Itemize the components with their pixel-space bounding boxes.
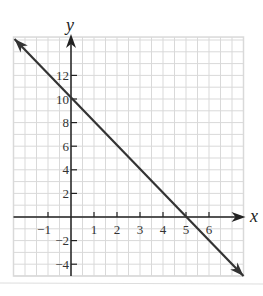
- y-tick-label: 12: [56, 68, 69, 83]
- y-tick-label: 4: [63, 162, 70, 177]
- x-tick-label: 2: [114, 222, 121, 237]
- y-tick-label: −4: [55, 257, 69, 272]
- x-tick-label: 1: [91, 222, 98, 237]
- x-tick-label: 4: [160, 222, 167, 237]
- y-tick-label: 6: [63, 139, 70, 154]
- y-tick-label: 8: [63, 115, 70, 130]
- x-tick-label: −1: [37, 222, 51, 237]
- line-graph: −1123456−4−224681012 x y: [0, 0, 263, 296]
- x-tick-label: 6: [206, 222, 213, 237]
- y-axis-label: y: [64, 15, 74, 35]
- y-tick-label: 2: [63, 186, 70, 201]
- x-tick-label: 5: [183, 222, 190, 237]
- x-axis-label: x: [249, 206, 258, 226]
- y-tick-label: −2: [55, 233, 69, 248]
- x-tick-label: 3: [137, 222, 144, 237]
- bottom-separator: [0, 283, 263, 284]
